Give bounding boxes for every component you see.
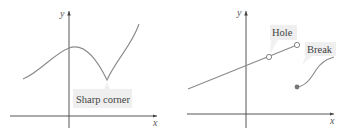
- left-x-label: x: [152, 117, 158, 128]
- break-curve: [297, 57, 334, 87]
- break-pointer: [302, 55, 313, 65]
- break-start-filled-marker: [295, 85, 300, 90]
- line-end-open-marker: [294, 42, 299, 47]
- left-y-label: y: [59, 8, 65, 19]
- break-label: Break: [307, 44, 333, 55]
- sharp-corner-pointer: [104, 82, 110, 90]
- hole-label: Hole: [272, 27, 293, 38]
- right-panel: x y Hole Break: [187, 7, 336, 128]
- hole-pointer: [270, 40, 278, 54]
- left-panel: x y Sharp corner: [10, 8, 158, 128]
- right-y-label: y: [236, 7, 242, 18]
- right-x-label: x: [329, 115, 335, 126]
- hole-marker: [266, 54, 271, 59]
- sharp-corner-label: Sharp corner: [76, 94, 130, 105]
- right-line: [188, 45, 297, 89]
- figure: x y Sharp corner x y Hole Break: [0, 0, 344, 137]
- left-curve: [23, 24, 139, 80]
